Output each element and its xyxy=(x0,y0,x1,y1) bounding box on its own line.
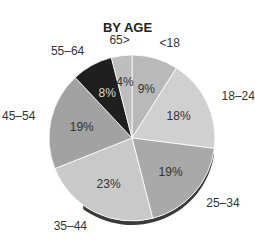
slice-value-label: 18% xyxy=(167,109,191,123)
slice-category-label: 65> xyxy=(109,33,129,47)
slice-category-label: 25–34 xyxy=(206,196,240,210)
slice-value-label: 23% xyxy=(97,177,121,191)
slice-value-label: 4% xyxy=(116,75,134,89)
slice-value-label: 9% xyxy=(138,82,156,96)
slice-value-label: 19% xyxy=(70,120,94,134)
slice-value-label: 19% xyxy=(159,165,183,179)
slice-category-label: 18–24 xyxy=(222,89,255,103)
pie-chart: 9%<1818%18–2419%25–3423%35–4419%45–548%5… xyxy=(0,0,255,242)
slice-category-label: <18 xyxy=(160,36,181,50)
slice-category-label: 55–64 xyxy=(51,44,85,58)
slice-category-label: 45–54 xyxy=(2,109,36,123)
slice-category-label: 35–44 xyxy=(54,219,88,233)
slice-value-label: 8% xyxy=(99,86,117,100)
